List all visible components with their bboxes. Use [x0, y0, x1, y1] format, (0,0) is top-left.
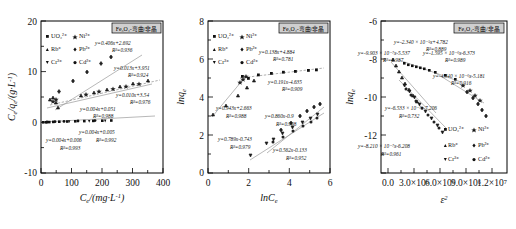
annotation-r2-1: R²=0.924: [127, 72, 149, 78]
annotation-eq-4: y=0.004x+0.005: [78, 129, 115, 135]
corner-label: Fe₃O₄-弯曲/非晶: [116, 25, 158, 33]
legend: UO₂²⁺ Ni²⁺ Rb⁺ Pb²⁺ Cr³⁺ Cd²⁺: [46, 32, 91, 65]
legend-marker-ni: [72, 35, 77, 40]
annotation-r2-2: R²=0.976: [129, 99, 151, 105]
legend-label-rb: Rb⁺: [218, 45, 228, 52]
annotation-eq-1: y=0.013x+3.951: [113, 65, 150, 71]
legend-label-ni: Ni²⁺: [478, 125, 489, 132]
legend-marker-uo2: [46, 35, 49, 38]
annotation-r2-2: R²=0.989: [444, 57, 466, 63]
legend-marker-cr: [46, 61, 49, 64]
annotation-eq-2: y=0.943x+2.663: [215, 105, 252, 111]
legend-label-cr: Cr³⁺: [218, 58, 229, 65]
x-axis-title: Ce/(mg·L-1): [80, 192, 125, 204]
legend-marker-ni: [471, 128, 476, 133]
y-tick-label: 4: [199, 93, 204, 103]
panel-dubinin-radushkevich: -6 -8 -10 -12 0.0 3.0×10⁶ 6.0×10⁶ 9.0×10…: [341, 0, 516, 229]
annotation-eq-1: y=-9.903 × 10⁻⁷x-5.537: [357, 50, 410, 56]
figure-adsorption-isotherms: -10 0 10 20 0 100 200 300 400 Ce/(mg·L-1…: [0, 0, 516, 229]
series-low-cluster: [42, 119, 113, 123]
y-tick-label: 0: [199, 168, 204, 178]
annotation-r2-5: R²=0.961: [380, 151, 402, 157]
legend-label-cd: Cd²⁺: [478, 155, 490, 162]
legend-marker-rb: [444, 144, 447, 147]
series-pb: [466, 90, 488, 118]
x-axis-title: ε2: [440, 194, 448, 205]
annotation-eq-0: y=-2.340 × 10⁻⁵x+4.782: [393, 39, 448, 45]
y-tick-label: 20: [28, 17, 38, 27]
legend-label-pb: Pb²⁺: [79, 45, 90, 52]
x-tick-label: 4: [287, 178, 292, 188]
legend-marker-uo2: [213, 35, 216, 38]
legend-marker-cd: [240, 61, 243, 64]
legend-marker-ni: [239, 35, 244, 40]
annotation-eq-0: y=0.406x+2.692: [94, 40, 131, 46]
legend-marker-rb: [213, 48, 216, 51]
annotation-r2-5: R²=0.952: [285, 155, 307, 161]
annotation-eq-2: y=0.010x+3.54: [115, 92, 149, 98]
y-tick-label: 10: [28, 67, 38, 77]
y-tick-label: 6: [199, 55, 204, 65]
legend-marker-pb: [472, 144, 475, 148]
annotation-r2-3: R²=0.988: [92, 113, 114, 119]
x-tick-label: 400: [156, 178, 171, 188]
annotation-eq-4: y=-6.533 × 10⁻⁷x-7.206: [384, 105, 437, 111]
legend-label-rb: Rb⁺: [448, 141, 458, 148]
y-tick-label: 8: [199, 17, 204, 27]
legend: UO₂²⁺ Ni²⁺ Rb⁺ Pb²⁺ Cr³⁺ Cd²⁺: [213, 32, 258, 65]
y-tick-label: -10: [364, 93, 377, 103]
legend-label-pb: Pb²⁺: [478, 141, 489, 148]
panel-langmuir: -10 0 10 20 0 100 200 300 400 Ce/(mg·L-1…: [0, 0, 175, 229]
annotation-r2-4: R²=0.992: [95, 137, 117, 143]
x-tick-label: 0: [39, 178, 44, 188]
legend-label-rb: Rb⁺: [51, 45, 61, 52]
x-tick-label: 2: [246, 178, 251, 188]
legend-label-ni: Ni²⁺: [79, 32, 90, 39]
legend-label-cr: Cr³⁺: [51, 58, 62, 65]
legend-marker-pb: [240, 48, 243, 52]
legend: UO₂²⁺ Ni²⁺ Rb⁺ Pb²⁺ Cr³⁺ Cd²⁺: [444, 125, 490, 162]
corner-label: Fe₃O₄-弯曲/非晶: [458, 25, 500, 33]
legend-label-cd: Cd²⁺: [79, 58, 91, 65]
x-tick-label: 6: [328, 178, 333, 188]
annotation-r2-1: R²=0.987: [382, 57, 404, 63]
y-tick-label: -6: [369, 17, 377, 27]
annotation-r2-3: R²=0.916: [450, 80, 472, 86]
annotation-eq-3: y=0.004x+0.051: [79, 106, 116, 112]
y-axis-title: Ce/qe/(g·L-1): [6, 72, 18, 121]
annotation-eq-2: y=-1.595 × 10⁻⁶x-6.373: [422, 50, 475, 56]
annotation-eq-1: y=0.191x-4.635: [267, 79, 302, 85]
y-tick-label: -10: [24, 168, 37, 178]
legend-marker-uo2: [444, 128, 447, 131]
x-tick-label: 200: [95, 178, 110, 188]
legend-marker-cd: [73, 61, 76, 64]
y-tick-label: -12: [364, 131, 377, 141]
y-tick-label: 0: [32, 118, 37, 128]
legend-marker-cr: [213, 61, 216, 64]
annotation-eq-5: y=0.562x-0.133: [272, 147, 307, 153]
panel-freundlich: 0 2 4 6 8 0 2 4 6 lnCe lnqe Fe₃O₄-弯曲/非晶 …: [172, 0, 344, 229]
legend-label-cr: Cr³⁺: [448, 155, 459, 162]
annotation-r2-2: R²=0.988: [225, 113, 247, 119]
legend-label-uo2: UO₂²⁺: [218, 32, 234, 39]
x-tick-label: 0: [206, 178, 211, 188]
annotation-r2-5: R²=0.993: [59, 145, 81, 151]
legend-label-uo2: UO₂²⁺: [448, 125, 464, 132]
legend-marker-cd: [472, 158, 475, 161]
legend-marker-pb: [73, 48, 76, 52]
annotation-eq-3: y=0.860x-0.9: [264, 113, 294, 119]
x-tick-label: 0.0: [382, 178, 394, 188]
legend-label-uo2: UO₂²⁺: [51, 32, 67, 39]
annotation-eq-3: y=-4.340 × 10⁻⁶x-5.181: [432, 73, 485, 79]
legend-marker-rb: [46, 48, 49, 51]
annotation-eq-5: y=0.004x+0.006: [45, 137, 82, 143]
annotation-r2-0: R²=0.781: [272, 56, 294, 62]
y-axis-title: lnqe: [175, 89, 187, 105]
y-tick-label: 2: [199, 131, 204, 141]
corner-label: Fe₃O₄-弯曲/非晶: [283, 25, 325, 33]
legend-label-cd: Cd²⁺: [246, 58, 258, 65]
y-tick-label: -8: [369, 55, 377, 65]
annotation-r2-0: R²=0.936: [111, 47, 133, 53]
annotations: y=0.406x+2.692 R²=0.936 y=0.013x+3.951 R…: [45, 40, 151, 151]
annotation-eq-0: y=0.138x+4.884: [258, 49, 295, 55]
